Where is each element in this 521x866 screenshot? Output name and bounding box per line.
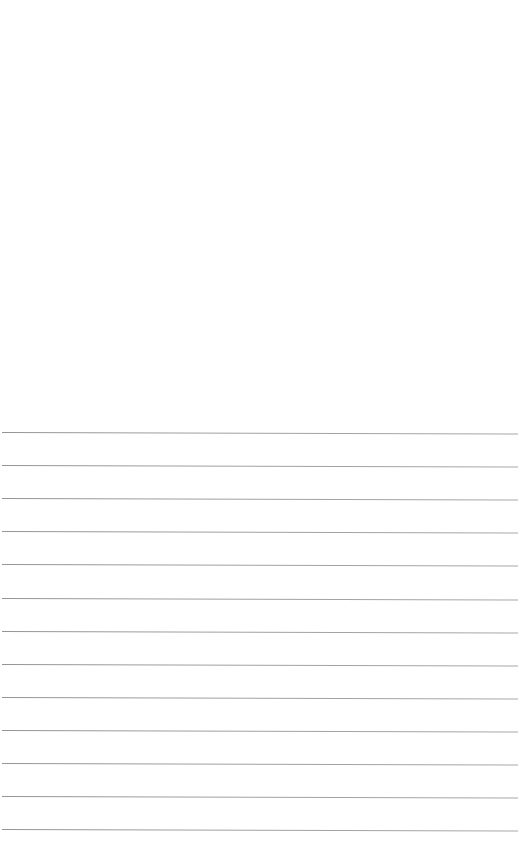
ruled-line [2,564,518,567]
ruled-line [2,664,518,667]
ruled-line [2,796,518,799]
ruled-line [2,498,518,501]
lined-paper-sheet [0,0,521,866]
ruled-line [2,829,518,832]
ruled-line [2,598,518,601]
ruled-line [2,465,518,468]
ruled-line [2,432,518,435]
ruled-line [2,531,518,534]
ruled-lines-area [0,0,521,866]
ruled-line [2,730,518,733]
ruled-line [2,763,518,766]
ruled-line [2,631,518,634]
ruled-line [2,697,518,700]
